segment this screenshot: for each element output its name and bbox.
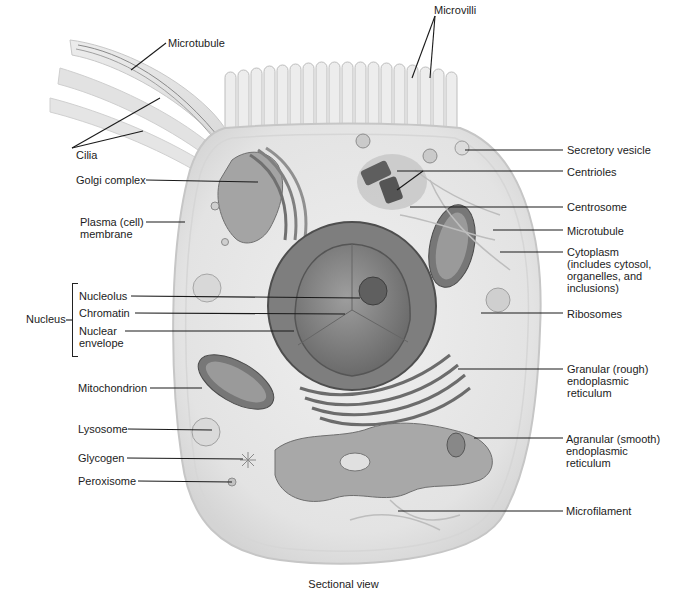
vesicle-right — [486, 288, 510, 312]
label-nucleolus: Nucleolus — [79, 290, 127, 302]
label-nucleus: Nucleus — [26, 313, 66, 325]
secretory-vesicle — [455, 141, 469, 155]
vesicle-top1 — [356, 134, 370, 148]
cell-diagram: Microtubule Cilia Golgi complex Plasma (… — [0, 0, 687, 598]
label-chromatin: Chromatin — [79, 307, 130, 319]
label-plasma-membrane: Plasma (cell) membrane — [80, 216, 144, 240]
label-lysosome: Lysosome — [78, 423, 128, 435]
label-mitochondrion: Mitochondrion — [78, 382, 147, 394]
label-microvilli: Microvilli — [434, 4, 476, 16]
label-cytoplasm: Cytoplasm (includes cytosol, organelles,… — [567, 246, 651, 294]
figure-caption: Sectional view — [0, 578, 687, 590]
nucleolus — [359, 277, 387, 305]
nucleus — [268, 222, 436, 390]
nucleus-bracket — [72, 283, 78, 357]
label-cilia: Cilia — [76, 149, 97, 161]
label-microtubule-cilium: Microtubule — [168, 37, 225, 49]
label-ribosomes: Ribosomes — [567, 308, 622, 320]
label-nuclear-envelope: Nuclear envelope — [79, 325, 124, 349]
label-microtubule: Microtubule — [567, 225, 624, 237]
label-glycogen: Glycogen — [78, 452, 124, 464]
lysosome — [192, 418, 220, 446]
label-secretory-vesicle: Secretory vesicle — [567, 144, 651, 156]
label-peroxisome: Peroxisome — [78, 475, 136, 487]
centrosome — [357, 154, 427, 210]
vesicle-left — [193, 274, 221, 302]
label-centrosome: Centrosome — [567, 201, 627, 213]
label-microfilament: Microfilament — [566, 505, 631, 517]
label-smooth-er: Agranular (smooth) endoplasmic reticulum — [566, 433, 660, 469]
label-rough-er: Granular (rough) endoplasmic reticulum — [567, 363, 648, 399]
vesicle-top2 — [423, 149, 437, 163]
label-centrioles: Centrioles — [567, 166, 617, 178]
microvilli — [225, 62, 457, 132]
glycogen — [240, 452, 256, 468]
label-golgi-complex: Golgi complex — [76, 174, 146, 186]
